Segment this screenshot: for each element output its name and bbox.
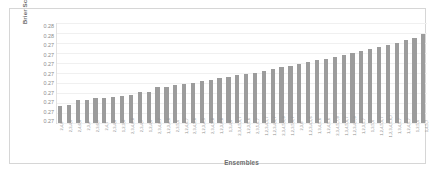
y-axis-tick-label: 0.27 <box>32 118 54 124</box>
x-axis-tick-label: 2,3,4,5,6 <box>192 118 197 134</box>
x-tick-slot: 1,3,5,6 <box>368 126 372 158</box>
x-axis-tick-label: 1,2,3,4,5,7 <box>264 116 269 135</box>
x-tick-slot: 1,3,4,5,6 <box>315 126 319 158</box>
x-axis-tick-label: 1,2,3,5,6 <box>246 118 251 134</box>
bar <box>102 98 106 123</box>
bar <box>85 100 89 123</box>
bar <box>217 78 221 123</box>
x-tick-slot: 1,2,3,4,5,6,7 <box>386 126 390 158</box>
x-tick-slot: 2,3,4,5,6 <box>190 126 194 158</box>
bar <box>368 49 372 123</box>
chart-frame: Brier Score 0.280.280.270.270.270.270.27… <box>9 8 426 164</box>
y-axis-tick-label: 0.27 <box>32 42 54 48</box>
x-axis-tick-label: 1,2,3,5,6,7 <box>290 116 295 135</box>
x-axis-tick-label: 2,3,4,5,7,8 <box>335 116 340 135</box>
x-axis-tick-label: 1,2,3,4,5,6 <box>308 116 313 135</box>
x-axis-tick-label: 2,4,6,8 <box>77 120 82 133</box>
bar <box>359 51 363 123</box>
x-tick-slot: 1,2,5,6 <box>413 126 417 158</box>
x-axis-tick-label: 2,3,4,5,8 <box>210 118 215 134</box>
x-tick-slot: 2,4,6 <box>57 126 61 158</box>
bar <box>306 62 310 123</box>
x-axis-tick-label: 1,2,5,6 <box>415 120 420 133</box>
x-axis-tick-label: 2,3,4 <box>86 121 91 130</box>
bar <box>253 73 257 123</box>
x-axis-tick-label: 1,2,3,6,8 <box>219 118 224 134</box>
x-tick-slot: 2,3,4,5,8 <box>208 126 212 158</box>
x-tick-slot: 1,2,3,6,8 <box>217 126 221 158</box>
bar <box>324 59 328 123</box>
x-tick-slot: 1,3,4,5,7 <box>395 126 399 158</box>
bar <box>209 80 213 123</box>
x-tick-slot: 1,2,3,4,6 <box>164 126 168 158</box>
bar <box>350 53 354 123</box>
x-axis-tick-label: 2,3,5,6,7 <box>255 118 260 134</box>
bar <box>412 38 416 123</box>
x-tick-slot: 1,2,3,5,7 <box>359 126 363 158</box>
x-axis-tick-label: 2,3,5,6 <box>175 120 180 133</box>
x-tick-slot: 2,3,5,6,7 <box>253 126 257 158</box>
bar <box>315 60 319 123</box>
x-axis-tick-label: 1,2,4,5,7 <box>406 118 411 134</box>
x-axis-tick-label: 2,3,4,6,7 <box>157 118 162 134</box>
x-tick-slot: 1,2,3,4,5,6 <box>306 126 310 158</box>
y-axis-title: Brier Score <box>20 0 30 49</box>
chart-figure: Brier Score 0.280.280.270.270.270.270.27… <box>0 0 437 179</box>
x-axis-tick-label: 2,3,4,5,6,8 <box>281 116 286 135</box>
x-tick-slot: 2,3,4,7 <box>137 126 141 158</box>
y-axis-tick-label: 0.27 <box>32 109 54 115</box>
x-axis-tick-label: 1,2,4,5,6 <box>326 118 331 134</box>
x-axis-tick-label: 1,4,5,7 <box>424 120 429 133</box>
bar <box>421 34 425 123</box>
x-tick-slot: 2,3,4,6,7 <box>155 126 159 158</box>
y-axis-tick-label: 0.28 <box>32 33 54 39</box>
x-tick-slot: 2,3,8 <box>297 126 301 158</box>
x-tick-slot: 1,2,3,4,7,8 <box>350 126 354 158</box>
x-axis-tick-label: 1,3,4,6 <box>228 120 233 133</box>
x-tick-slot: 1,2,3,4 <box>119 126 123 158</box>
x-axis-tick-label: 2,3,4,8 <box>112 120 117 133</box>
x-tick-slot: 2,3,4,5,7,8 <box>333 126 337 158</box>
bar <box>271 69 275 123</box>
y-axis-tick-label: 0.27 <box>32 90 54 96</box>
x-axis-tick-label: 1,2,3,4,6,7 <box>272 116 277 135</box>
x-axis-tick-label: 2,3,4,7 <box>139 120 144 133</box>
x-axis-tick-label: 1,3,5,6 <box>370 120 375 133</box>
y-axis-tick-labels: 0.280.280.270.270.270.270.270.270.270.27… <box>32 23 54 124</box>
x-tick-slot: 1,3,4,5,6,7 <box>342 126 346 158</box>
x-axis-tick-labels: 2,4,62,3,4,62,4,6,82,3,42,3,6,72,4,72,3,… <box>56 126 427 158</box>
x-tick-slot: 1,2,3,4,6,7 <box>270 126 274 158</box>
x-axis-tick-label: 1,2,3,4,5 <box>201 118 206 134</box>
x-axis-tick-label: 1,2,3,4 <box>121 120 126 133</box>
x-axis-tick-label: 1,2,4,6 <box>148 120 153 133</box>
x-tick-slot: 2,3,4 <box>84 126 88 158</box>
x-axis-tick-label: 1,2,3,5,7 <box>361 118 366 134</box>
x-axis-tick-label: 2,3,4,6 <box>68 120 73 133</box>
y-axis-tick-label: 0.27 <box>32 61 54 67</box>
x-tick-slot: 2,3,4,8 <box>110 126 114 158</box>
x-axis-title: Ensembles <box>56 159 427 166</box>
x-tick-slot: 1,4,5,7 <box>422 126 426 158</box>
x-axis-tick-label: 2,3,4,5,6,7 <box>237 116 242 135</box>
bar <box>333 57 337 123</box>
bar <box>200 81 204 123</box>
bar <box>244 74 248 124</box>
bar <box>297 64 301 123</box>
x-axis-tick-label: 1,2,4,5,6,7 <box>379 116 384 135</box>
bar <box>288 66 292 123</box>
x-axis-tick-label: 1,3,4,5,6,7 <box>344 116 349 135</box>
x-tick-slot: 2,3,6,7 <box>93 126 97 158</box>
x-axis-tick-label: 2,3,6,7 <box>95 120 100 133</box>
x-tick-slot: 2,4,7 <box>101 126 105 158</box>
x-axis-tick-label: 2,4,7 <box>104 121 109 130</box>
x-tick-slot: 1,3,4,6 <box>226 126 230 158</box>
x-tick-slot: 1,2,4,5,7 <box>404 126 408 158</box>
y-axis-tick-label: 0.27 <box>32 52 54 58</box>
bar <box>226 77 230 123</box>
x-tick-slot: 1,2,3,4,5 <box>199 126 203 158</box>
x-tick-slot: 2,3,4,5,6,8 <box>279 126 283 158</box>
x-tick-slot: 2,3,4,6 <box>66 126 70 158</box>
x-tick-slot: 1,2,4,5,6,7 <box>377 126 381 158</box>
bar-series <box>57 23 427 123</box>
y-axis-tick-label: 0.27 <box>32 80 54 86</box>
